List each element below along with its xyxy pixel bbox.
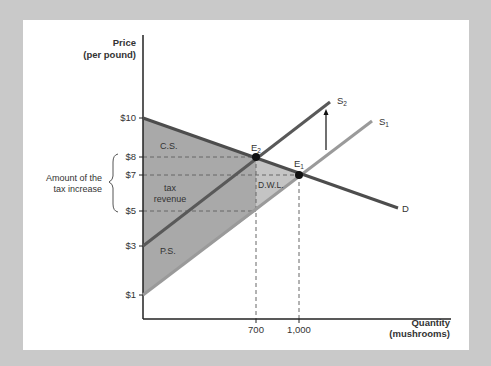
annotation-line1: Amount of the	[46, 173, 102, 183]
x-tick-1000: 1,000	[287, 324, 311, 335]
y-tick-10: $10	[120, 112, 136, 123]
y-axis-unit: (per pound)	[83, 49, 136, 60]
annotation-line2: tax increase	[53, 184, 102, 194]
e1-label: E1	[294, 158, 304, 170]
y-tick-5: $5	[125, 205, 136, 216]
x-axis-unit: (mushrooms)	[389, 328, 450, 339]
dwl-label: D.W.L.	[258, 180, 284, 190]
y-tick-8: $8	[125, 151, 136, 162]
d-label: D	[402, 203, 409, 214]
x-axis-title: Quantity	[411, 317, 450, 328]
y-axis-title: Price	[113, 37, 136, 48]
y-tick-7: $7	[125, 169, 136, 180]
tax-revenue-label-line1: tax	[164, 183, 177, 193]
arrow-head-icon	[324, 109, 329, 115]
supply-demand-chart: Price (per pound) Quantity (mushrooms) $…	[0, 0, 491, 366]
e2-label: E2	[251, 142, 261, 154]
y-tick-3: $3	[125, 240, 136, 251]
tax-revenue-label-line2: revenue	[154, 194, 187, 204]
equilibrium-point-e2	[252, 153, 260, 161]
s1-label: S1	[379, 116, 389, 128]
equilibrium-point-e1	[295, 171, 303, 179]
s2-label: S2	[337, 95, 347, 107]
cs-label: C.S.	[160, 141, 178, 151]
x-tick-700: 700	[248, 324, 264, 335]
ps-label: P.S.	[160, 246, 176, 256]
brace-icon	[109, 154, 118, 212]
y-tick-1: $1	[125, 289, 136, 300]
